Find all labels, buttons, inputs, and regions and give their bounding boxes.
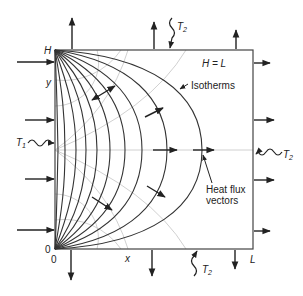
label-isotherms: Isotherms <box>191 80 235 91</box>
heat-flux-pointer <box>203 155 212 183</box>
label-y: y <box>45 77 52 88</box>
label-l: L <box>250 254 256 265</box>
label-t2-top: T2 <box>177 21 187 33</box>
heat-conduction-diagram: H y 0 0 x L H = L Isotherms Heat flux ve… <box>0 0 303 296</box>
label-x: x <box>124 253 131 264</box>
label-origin-bottom: 0 <box>51 254 57 265</box>
label-t2-bottom: T2 <box>202 264 212 276</box>
label-t1: T1 <box>16 137 26 149</box>
top-sink-wave-icon <box>170 18 175 48</box>
isotherms <box>55 50 202 249</box>
label-heat-flux-2: vectors <box>206 195 238 206</box>
right-boundary-arrows <box>254 63 274 231</box>
label-aspect: H = L <box>202 58 226 69</box>
label-heat-flux-1: Heat flux <box>206 184 245 195</box>
top-boundary-arrows <box>72 18 236 49</box>
bottom-sink-wave-icon <box>192 251 198 276</box>
label-h: H <box>44 45 52 56</box>
left-heat-source-wave-icon <box>28 140 52 146</box>
label-t2-right: T2 <box>283 149 293 161</box>
right-sink-wave-icon <box>256 149 282 155</box>
isotherms-pointer <box>180 84 188 89</box>
